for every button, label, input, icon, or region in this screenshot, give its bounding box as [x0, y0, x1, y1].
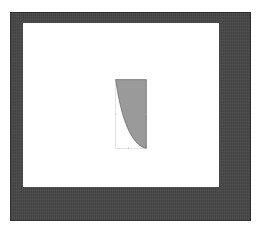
shaded-region	[116, 80, 147, 149]
figure-plot-area	[115, 79, 147, 149]
figure-page	[0, 0, 258, 229]
photo-border	[10, 12, 251, 221]
white-canvas	[23, 23, 219, 187]
shaded-region-chart	[115, 79, 147, 149]
